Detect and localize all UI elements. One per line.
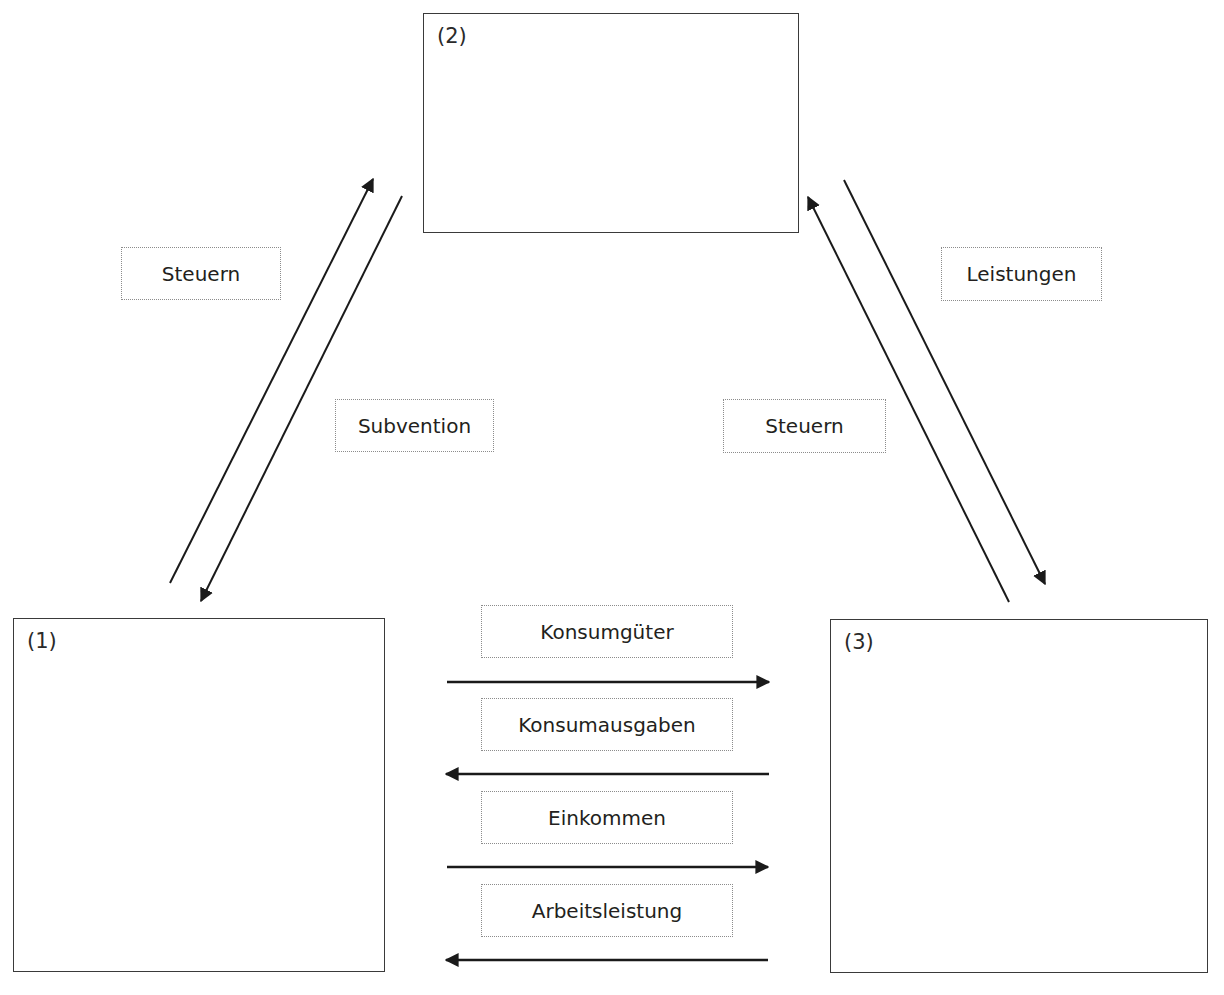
arrow-steuern-1-to-2	[170, 179, 373, 583]
label-konsumausgaben: Konsumausgaben	[481, 698, 733, 751]
flow-arrows	[0, 0, 1224, 995]
label-leistungen: Leistungen	[941, 247, 1102, 301]
label-subvention: Subvention	[335, 399, 494, 452]
label-einkommen: Einkommen	[481, 791, 733, 844]
arrow-leistungen-2-to-3	[844, 180, 1045, 584]
label-arbeitsleistung: Arbeitsleistung	[481, 884, 733, 937]
label-steuern-left: Steuern	[121, 247, 281, 300]
label-konsumgueter: Konsumgüter	[481, 605, 733, 658]
label-steuern-right: Steuern	[723, 399, 886, 453]
